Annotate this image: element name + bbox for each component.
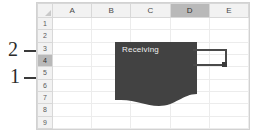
cell-d1[interactable] [170,18,209,30]
grid-row-9: 9 [38,116,249,128]
cell-a9[interactable] [53,116,92,128]
cell-e2[interactable] [209,30,248,42]
row-header-4[interactable]: 4 [38,54,53,66]
cell-c7[interactable] [131,91,170,103]
cell-a8[interactable] [53,104,92,116]
grid-row-6: 6 [38,79,249,91]
grid-table: A B C D E 1 2 [37,3,249,129]
cell-a7[interactable] [53,91,92,103]
row-header-1[interactable]: 1 [38,18,53,30]
cell-a2[interactable] [53,30,92,42]
row-header-9[interactable]: 9 [38,116,53,128]
cell-a4[interactable] [53,54,92,66]
row-header-6[interactable]: 6 [38,79,53,91]
grid-row-8: 8 [38,104,249,116]
row-header-7[interactable]: 7 [38,91,53,103]
callout-number-2: 2 [8,39,18,59]
cell-c2[interactable] [131,30,170,42]
cell-c4[interactable] [131,54,170,66]
cell-d9[interactable] [170,116,209,128]
receiving-shape-label: Receiving [122,45,159,54]
cell-e6[interactable] [209,79,248,91]
grid-row-2: 2 [38,30,249,42]
row-header-3[interactable]: 3 [38,42,53,54]
cell-b8[interactable] [92,104,131,116]
cell-a6[interactable] [53,79,92,91]
cell-c5[interactable] [131,67,170,79]
column-header-row: A B C D E [38,4,249,18]
cell-b6[interactable] [92,79,131,91]
row-header-8[interactable]: 8 [38,104,53,116]
select-all-corner[interactable] [38,4,53,18]
cell-a1[interactable] [53,18,92,30]
grid-row-1: 1 [38,18,249,30]
column-header-a[interactable]: A [53,4,92,18]
row-header-2[interactable]: 2 [38,30,53,42]
column-header-e[interactable]: E [209,4,248,18]
cell-b9[interactable] [92,116,131,128]
cell-d5[interactable] [170,67,209,79]
callout-number-1: 1 [10,66,20,86]
column-header-b[interactable]: B [92,4,131,18]
cell-e9[interactable] [209,116,248,128]
column-header-d[interactable]: D [170,4,209,18]
cell-d6[interactable] [170,79,209,91]
connector-drag-handle[interactable] [222,62,227,67]
grid-row-5: 5 [38,67,249,79]
cell-c8[interactable] [131,104,170,116]
cell-b4[interactable] [92,54,131,66]
cell-b2[interactable] [92,30,131,42]
cell-e1[interactable] [209,18,248,30]
cell-e8[interactable] [209,104,248,116]
cell-d2[interactable] [170,30,209,42]
cell-a5[interactable] [53,67,92,79]
cell-b5[interactable] [92,67,131,79]
cell-e7[interactable] [209,91,248,103]
grid-row-7: 7 [38,91,249,103]
cell-d7[interactable] [170,91,209,103]
select-all-triangle-icon [45,10,51,16]
cell-b7[interactable] [92,91,131,103]
column-header-c[interactable]: C [131,4,170,18]
cell-b1[interactable] [92,18,131,30]
row-header-5[interactable]: 5 [38,67,53,79]
spreadsheet-screenshot: 2 1 A B C D E 1 [0,0,264,133]
cell-d8[interactable] [170,104,209,116]
cell-c1[interactable] [131,18,170,30]
cell-c9[interactable] [131,116,170,128]
cell-c6[interactable] [131,79,170,91]
cell-a3[interactable] [53,42,92,54]
cell-e5[interactable] [209,67,248,79]
spreadsheet-grid[interactable]: A B C D E 1 2 [36,2,250,130]
